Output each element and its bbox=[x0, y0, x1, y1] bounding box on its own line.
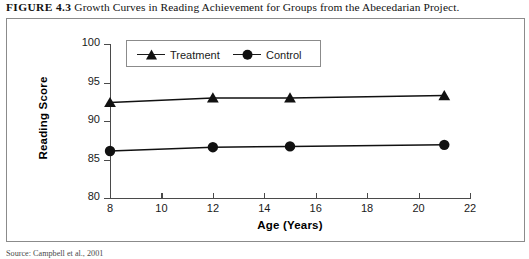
data-point-control-age-21 bbox=[439, 140, 449, 150]
figure-container: FIGURE 4.3 Growth Curves in Reading Achi… bbox=[0, 0, 529, 259]
series-line-control bbox=[110, 145, 444, 151]
legend-item-control[interactable]: Control bbox=[233, 41, 301, 68]
data-point-control-age-8 bbox=[105, 146, 115, 156]
circle-marker-icon bbox=[233, 48, 261, 62]
legend-label-treatment: Treatment bbox=[170, 49, 220, 61]
data-point-control-age-15 bbox=[285, 141, 295, 151]
source-note: Source: Campbell et al., 2001 bbox=[6, 249, 306, 259]
triangle-marker-icon bbox=[137, 48, 165, 62]
legend-label-control: Control bbox=[266, 49, 301, 61]
series-line-treatment bbox=[110, 96, 444, 103]
chart-legend: Treatment Control bbox=[126, 40, 321, 67]
plot-area: 100 95 90 85 80 8 10 12 14 16 18 20 22 A… bbox=[0, 0, 529, 259]
legend-item-treatment[interactable]: Treatment bbox=[137, 41, 220, 68]
data-series-layer bbox=[0, 0, 529, 259]
data-point-control-age-12 bbox=[208, 142, 218, 152]
